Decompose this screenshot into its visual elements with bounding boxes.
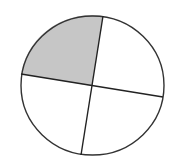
circle-svg (0, 0, 169, 166)
